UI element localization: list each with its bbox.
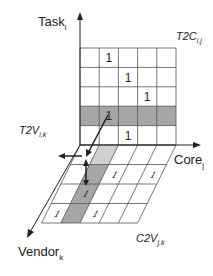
cell-value: 1 xyxy=(149,169,158,180)
cell-value: 1 xyxy=(53,208,62,219)
cell-value: 1 xyxy=(125,71,132,85)
highlighted-row xyxy=(80,106,176,125)
c2v-matrix-label: C2Vj,k xyxy=(136,232,164,246)
projection-arrowhead-up-icon xyxy=(83,159,89,166)
projection-arrowhead-left-icon xyxy=(58,153,65,159)
vendor-axis-label: Vendork xyxy=(18,244,63,262)
core-axis-label: Corej xyxy=(174,152,204,170)
task-axis-arrowhead-icon xyxy=(77,12,83,20)
cell-value: 1 xyxy=(125,129,132,143)
task-axis-label: Taski xyxy=(38,14,67,32)
highlighted-column-cell xyxy=(61,204,90,224)
cell-value: 1 xyxy=(144,90,151,104)
t2c-matrix-label: T2Ci,j xyxy=(176,30,202,44)
t2v-matrix-label: T2Vi,k xyxy=(19,124,46,138)
cell-value: 1 xyxy=(91,208,100,219)
t2c-matrix-grid: 11111 xyxy=(80,48,176,145)
highlighted-column-cell xyxy=(90,145,119,165)
core-axis-arrowhead-icon xyxy=(193,142,201,148)
cell-value: 1 xyxy=(110,169,119,180)
cell-value: 1 xyxy=(105,51,112,65)
vendor-axis-arrowhead-icon xyxy=(27,229,34,238)
